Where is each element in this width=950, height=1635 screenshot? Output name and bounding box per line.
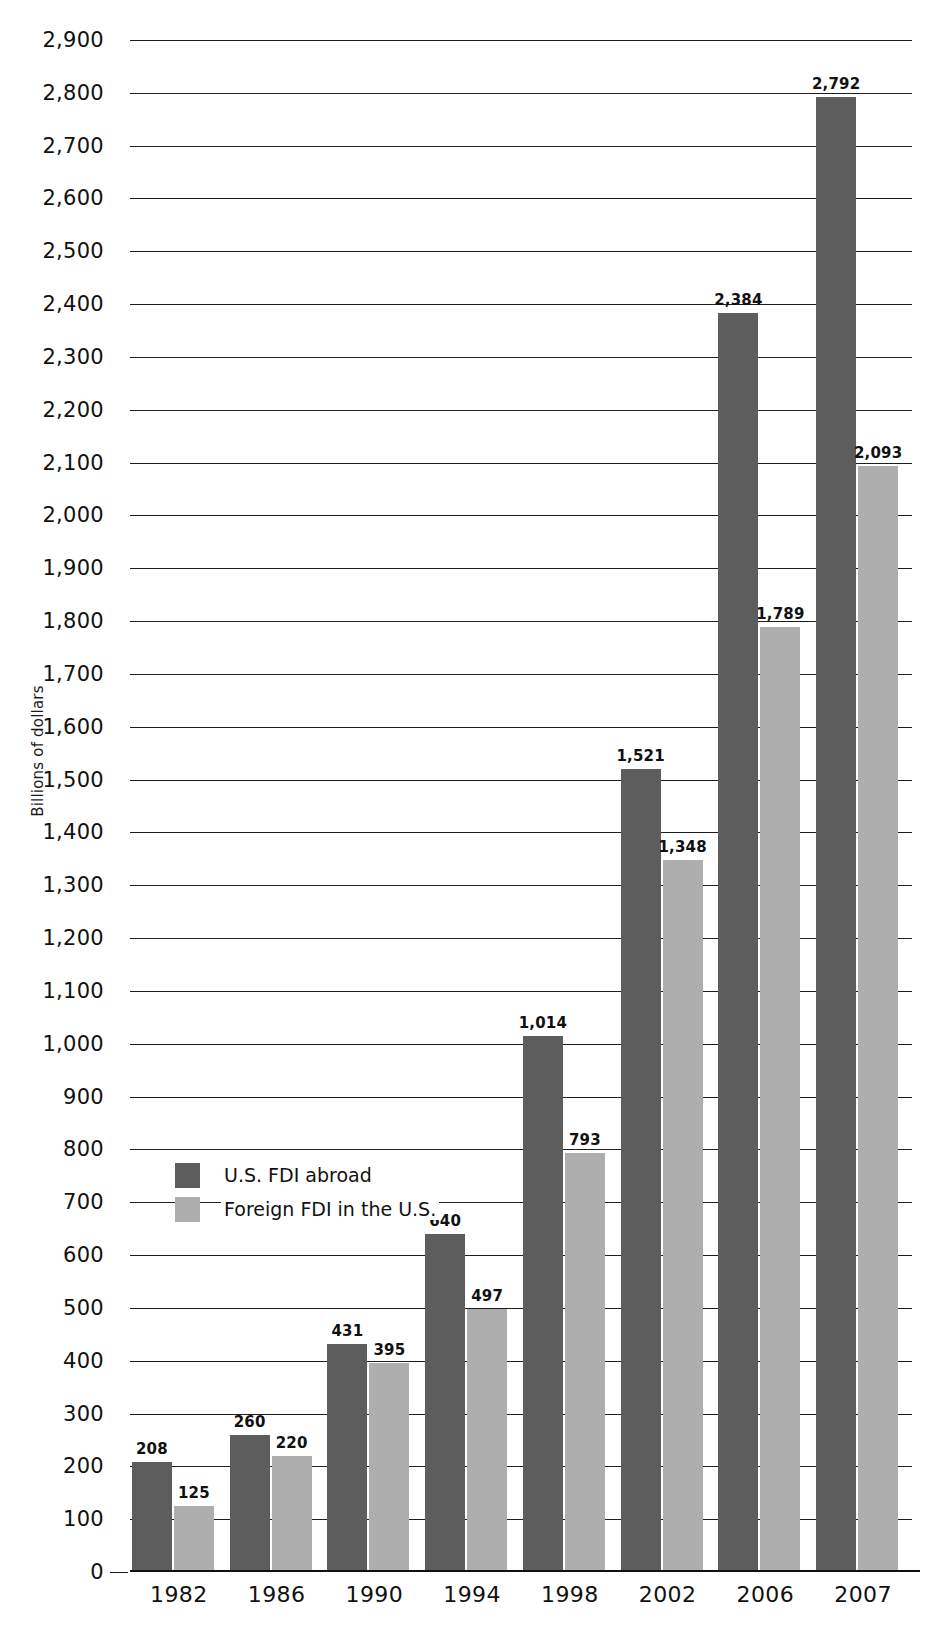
- x-axis-tick-label: 1998: [521, 1582, 619, 1607]
- bar-value-label: 497: [471, 1287, 503, 1305]
- bar-value-label: 793: [569, 1131, 601, 1149]
- bar-group: 640497: [423, 40, 521, 1572]
- x-axis-tick-label: 2006: [717, 1582, 815, 1607]
- bar-value-label: 2,792: [812, 75, 860, 93]
- bar-value-label: 125: [178, 1484, 210, 1502]
- y-axis-tick-label: 200: [63, 1454, 104, 1478]
- bar[interactable]: 208: [132, 1462, 172, 1572]
- y-axis-tick-label: 2,400: [42, 292, 104, 316]
- legend-label: Foreign FDI in the U.S.: [221, 1198, 439, 1220]
- legend-item[interactable]: Foreign FDI in the U.S.: [175, 1192, 439, 1226]
- y-axis-tick-label: 1,500: [42, 768, 104, 792]
- bar-value-label: 1,521: [616, 747, 664, 765]
- bar-group: 2,3841,789: [717, 40, 815, 1572]
- bar-value-label: 260: [234, 1413, 266, 1431]
- y-axis-tick-label: 2,100: [42, 451, 104, 475]
- bar-group: 1,014793: [521, 40, 619, 1572]
- y-axis-tick-label: 2,700: [42, 134, 104, 158]
- x-axis-tick-label: 1982: [130, 1582, 228, 1607]
- y-axis-tick-label: 1,100: [42, 979, 104, 1003]
- bar[interactable]: 395: [369, 1363, 409, 1572]
- y-axis-tick-label: 2,300: [42, 345, 104, 369]
- y-axis-tick-label: 2,900: [42, 28, 104, 52]
- y-axis-tick-label: 1,800: [42, 609, 104, 633]
- y-axis-tick-label: 1,000: [42, 1032, 104, 1056]
- bar[interactable]: 497: [467, 1309, 507, 1572]
- y-axis-tick-label: 0: [90, 1560, 104, 1584]
- y-axis-tick-label: 2,200: [42, 398, 104, 422]
- y-axis-tick-label: 2,500: [42, 239, 104, 263]
- x-axis-tick-label: 1990: [326, 1582, 424, 1607]
- bar[interactable]: 640: [425, 1234, 465, 1572]
- y-axis-tick-label: 2,800: [42, 81, 104, 105]
- legend-item[interactable]: U.S. FDI abroad: [175, 1158, 439, 1192]
- y-axis-tick-label: 1,900: [42, 556, 104, 580]
- bar[interactable]: 220: [272, 1456, 312, 1572]
- y-axis-tick-label: 600: [63, 1243, 104, 1267]
- y-axis-tick-label: 1,400: [42, 820, 104, 844]
- bar[interactable]: 2,792: [816, 97, 856, 1572]
- plot-area: 01002003004005006007008009001,0001,1001,…: [130, 40, 912, 1572]
- bar[interactable]: 1,789: [760, 627, 800, 1572]
- legend-swatch-icon: [175, 1163, 200, 1188]
- y-axis-tick-label: 300: [63, 1402, 104, 1426]
- bar-group: 208125: [130, 40, 228, 1572]
- bar[interactable]: 260: [230, 1435, 270, 1572]
- x-axis-tick-label: 1986: [228, 1582, 326, 1607]
- bar[interactable]: 2,384: [718, 313, 758, 1572]
- bar-value-label: 1,789: [756, 605, 804, 623]
- y-axis-tick-label: 2,000: [42, 503, 104, 527]
- bar-value-label: 2,384: [714, 291, 762, 309]
- bar[interactable]: 1,014: [523, 1036, 563, 1572]
- bar[interactable]: 125: [174, 1506, 214, 1572]
- y-axis-tick-label: 500: [63, 1296, 104, 1320]
- axis-tick: [110, 1572, 128, 1573]
- y-axis-tick-label: 900: [63, 1085, 104, 1109]
- bar-chart: Billions of dollars 01002003004005006007…: [0, 0, 950, 1635]
- bar-value-label: 208: [136, 1440, 168, 1458]
- y-axis-tick-label: 1,200: [42, 926, 104, 950]
- x-axis-tick-label: 1994: [423, 1582, 521, 1607]
- bar-group: 1,5211,348: [619, 40, 717, 1572]
- bar[interactable]: 1,521: [621, 769, 661, 1573]
- bar-value-label: 431: [331, 1322, 363, 1340]
- bar-value-label: 220: [276, 1434, 308, 1452]
- bar[interactable]: 2,093: [858, 466, 898, 1572]
- y-axis-tick-label: 100: [63, 1507, 104, 1531]
- bar-group: 2,7922,093: [814, 40, 912, 1572]
- y-axis-tick-label: 400: [63, 1349, 104, 1373]
- x-axis-tick-label: 2002: [619, 1582, 717, 1607]
- bar-value-label: 2,093: [854, 444, 902, 462]
- bar-group: 431395: [326, 40, 424, 1572]
- bar-group: 260220: [228, 40, 326, 1572]
- legend: U.S. FDI abroadForeign FDI in the U.S.: [175, 1158, 439, 1226]
- bar[interactable]: 793: [565, 1153, 605, 1572]
- y-axis-tick-label: 700: [63, 1190, 104, 1214]
- bar[interactable]: 1,348: [663, 860, 703, 1572]
- bar-value-label: 1,014: [519, 1014, 567, 1032]
- legend-swatch-icon: [175, 1197, 200, 1222]
- bar[interactable]: 431: [327, 1344, 367, 1572]
- x-axis-baseline: [130, 1570, 920, 1572]
- x-axis-tick-label: 2007: [814, 1582, 912, 1607]
- y-axis-tick-label: 800: [63, 1137, 104, 1161]
- legend-label: U.S. FDI abroad: [221, 1164, 375, 1186]
- y-axis-tick-label: 2,600: [42, 186, 104, 210]
- y-axis-tick-label: 1,700: [42, 662, 104, 686]
- y-axis-tick-label: 1,600: [42, 715, 104, 739]
- y-axis-tick-label: 1,300: [42, 873, 104, 897]
- bar-value-label: 395: [373, 1341, 405, 1359]
- bar-value-label: 1,348: [658, 838, 706, 856]
